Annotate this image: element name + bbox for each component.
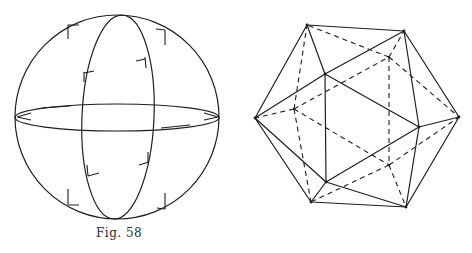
meridian-circle bbox=[78, 14, 159, 221]
vertex-points bbox=[254, 24, 461, 209]
sphere-outline bbox=[15, 15, 219, 219]
hidden-edges bbox=[255, 25, 459, 207]
figure-59-icosahedron: Fig. 59 bbox=[236, 0, 472, 253]
figure-58-sphere: Fig. 58 bbox=[0, 0, 236, 253]
icosahedron-diagram bbox=[236, 0, 472, 253]
sphere-diagram bbox=[0, 0, 236, 253]
direction-ticks bbox=[17, 25, 218, 209]
visible-edges bbox=[255, 25, 459, 207]
figure-58-caption: Fig. 58 bbox=[96, 226, 142, 240]
